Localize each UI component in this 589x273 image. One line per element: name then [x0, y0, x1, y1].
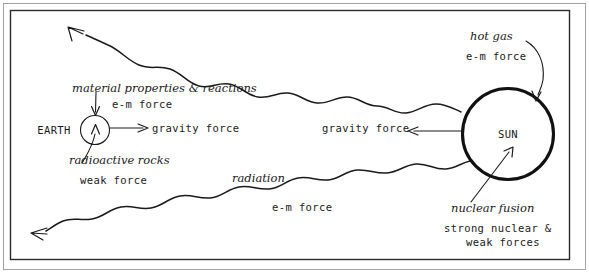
- nuclear-fusion-force-line1: strong nuclear &: [444, 222, 552, 234]
- material-properties-leader-line: [96, 92, 97, 112]
- radiation-label: radiation: [232, 171, 285, 185]
- nuclear-fusion-force-line2: weak forces: [466, 236, 540, 248]
- nuclear-fusion-leader-line: [471, 152, 509, 202]
- upper-radiation-arrowhead: [68, 27, 84, 41]
- diagram-canvas: SUN EARTH material properties & reaction…: [0, 0, 589, 273]
- sun-gravity-force-label: gravity force: [322, 122, 409, 134]
- hot-gas-leader-line: [526, 41, 543, 95]
- lower-radiation-arrowhead: [31, 228, 47, 240]
- radioactive-rocks-force-label: weak force: [80, 174, 147, 186]
- earth-label: EARTH: [37, 124, 71, 136]
- hot-gas-force-label: e-m force: [466, 50, 527, 62]
- radioactive-rocks-label: radioactive rocks: [69, 153, 170, 167]
- material-properties-force-label: e-m force: [112, 98, 173, 110]
- earth-gravity-force-label: gravity force: [152, 122, 239, 134]
- material-properties-label: material properties & reactions: [72, 81, 257, 95]
- hot-gas-label: hot gas: [470, 29, 513, 43]
- nuclear-fusion-label: nuclear fusion: [451, 201, 534, 215]
- physics-forces-diagram: SUN EARTH material properties & reaction…: [0, 0, 589, 273]
- sun-label: SUN: [498, 128, 518, 140]
- radiation-force-label: e-m force: [272, 201, 333, 213]
- radioactive-rocks-arrowhead: [92, 125, 100, 135]
- earth-circle: [81, 116, 110, 145]
